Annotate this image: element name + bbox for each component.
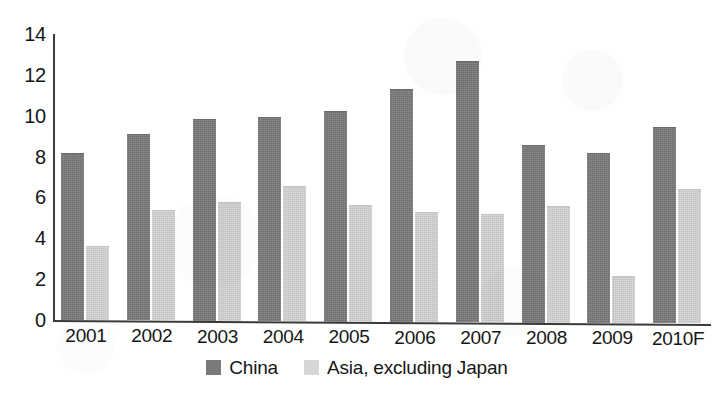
bar-asia-excluding-japan-2008 (547, 206, 570, 322)
y-axis-tick-label: 10 (12, 106, 46, 126)
bar-asia-excluding-japan-2007 (481, 214, 504, 322)
bar-asia-excluding-japan-2005 (349, 205, 372, 321)
legend-swatch-icon (206, 360, 221, 375)
x-axis-tick-label-2008: 2008 (510, 327, 584, 349)
bar-china-2010F (653, 127, 676, 323)
bar-chart-figure: 02468101214 2001200220032004200520062007… (0, 0, 714, 402)
x-axis-tick-label-2007: 2007 (444, 327, 518, 349)
bar-china-2008 (522, 145, 545, 323)
y-axis-tick-label: 4 (12, 228, 46, 248)
bar-asia-excluding-japan-2010F (678, 189, 701, 324)
bar-china-2009 (587, 153, 610, 323)
legend-label: China (229, 357, 278, 378)
y-axis-tick-label: 6 (12, 187, 46, 207)
y-axis-tick-label: 14 (12, 24, 46, 44)
bars-layer (53, 34, 711, 320)
x-axis-tick-label-2009: 2009 (575, 327, 649, 349)
bar-china-2006 (390, 89, 413, 322)
y-axis-tick-label: 2 (12, 269, 46, 289)
y-axis-tick-label: 8 (12, 147, 46, 167)
bar-asia-excluding-japan-2003 (218, 202, 241, 320)
x-axis-tick-label-2002: 2002 (115, 325, 189, 347)
bar-asia-excluding-japan-2004 (283, 186, 306, 321)
legend-entry-asia-excluding-japan[interactable]: Asia, excluding Japan (304, 357, 508, 378)
y-axis-tick-label: 0 (12, 310, 46, 330)
bar-china-2003 (193, 119, 216, 321)
bar-china-2001 (61, 153, 84, 321)
x-axis-tick-label-2001: 2001 (49, 325, 123, 347)
bar-china-2002 (127, 134, 150, 320)
legend-swatch-icon (304, 360, 319, 375)
bar-asia-excluding-japan-2002 (152, 210, 175, 320)
x-axis-tick-labels: 2001200220032004200520062007200820092010… (53, 325, 711, 353)
chart-legend: ChinaAsia, excluding Japan (0, 357, 714, 378)
bar-asia-excluding-japan-2009 (612, 276, 635, 323)
legend-label: Asia, excluding Japan (327, 357, 508, 378)
bar-china-2005 (324, 111, 347, 321)
x-axis-tick-label-2004: 2004 (246, 326, 320, 348)
legend-entry-china[interactable]: China (206, 357, 278, 378)
bar-china-2004 (258, 117, 281, 321)
plot-area (53, 34, 711, 320)
y-axis-tick-label: 12 (12, 65, 46, 85)
bar-china-2007 (456, 61, 479, 322)
bar-asia-excluding-japan-2006 (415, 212, 438, 322)
x-axis-tick-label-2006: 2006 (378, 327, 452, 349)
bar-asia-excluding-japan-2001 (86, 246, 109, 320)
x-axis-tick-label-2010F: 2010F (641, 328, 714, 350)
y-axis-tick-labels: 02468101214 (8, 34, 46, 320)
x-axis-tick-label-2003: 2003 (181, 326, 255, 348)
x-axis-tick-label-2005: 2005 (312, 326, 386, 348)
